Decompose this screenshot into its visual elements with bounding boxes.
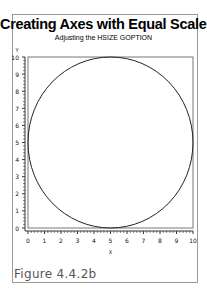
plot-area: 012345678910Y012345678910X [0,0,207,295]
y-tick-label: 6 [15,122,19,129]
circle-curve [28,57,193,228]
plot-box [28,57,193,228]
x-tick-label: 10 [189,237,197,244]
x-tick-label: 0 [26,237,30,244]
x-tick-label: 8 [158,237,162,244]
y-tick-label: 0 [15,225,19,232]
circle-series [28,57,193,228]
x-axis-label: X [109,249,113,255]
figure-caption: Figure 4.4.2b [14,267,97,281]
y-tick-label: 10 [11,54,19,61]
x-tick-label: 7 [142,237,146,244]
y-tick-label: 1 [15,207,19,214]
x-tick-label: 3 [76,237,80,244]
x-tick-label: 4 [92,237,96,244]
x-tick-label: 1 [43,237,47,244]
y-tick-label: 4 [15,156,19,163]
x-tick-label: 2 [59,237,63,244]
x-tick-label: 5 [109,237,113,244]
y-tick-label: 3 [15,173,19,180]
y-tick-label: 5 [15,139,19,146]
y-tick-label: 8 [15,88,19,95]
y-tick-label: 2 [15,190,19,197]
y-tick-label: 7 [15,105,19,112]
x-tick-label: 9 [175,237,179,244]
y-tick-label: 9 [15,71,19,78]
y-axis-label: Y [14,47,19,53]
x-tick-label: 6 [125,237,129,244]
axes: 012345678910Y012345678910X [11,47,197,255]
